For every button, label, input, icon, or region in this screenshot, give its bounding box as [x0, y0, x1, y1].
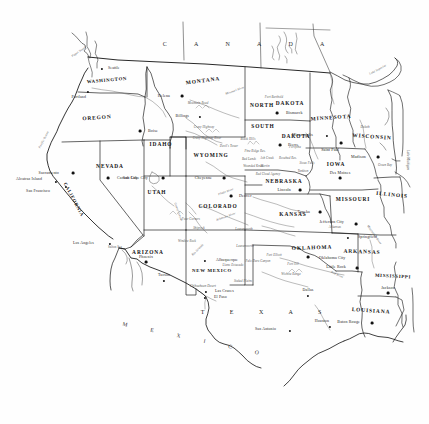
city-marker-dot	[279, 144, 282, 147]
city-marker-dot	[307, 256, 310, 259]
city-marker-dot	[371, 322, 374, 325]
city-marker-dot	[139, 130, 142, 133]
city-marker-dot	[181, 95, 184, 98]
city-marker-dot	[145, 261, 148, 264]
city-marker-dot	[299, 189, 302, 192]
city-marker-dot	[387, 292, 390, 295]
city-marker-dot	[356, 267, 359, 270]
city-marker-dot	[276, 112, 279, 115]
city-marker-dot	[230, 195, 233, 198]
city-marker-dot	[319, 211, 322, 214]
map-geometry	[0, 0, 429, 424]
city-marker-dot	[340, 142, 343, 145]
city-marker-dot	[107, 177, 110, 180]
map-canvas: C A N A D A M E X I C O T E X A S Pacifi…	[0, 0, 429, 424]
city-marker-dot	[162, 177, 165, 180]
city-marker-dot	[339, 177, 342, 180]
city-marker-dot	[72, 172, 75, 175]
city-marker-dot	[223, 177, 226, 180]
city-marker-dot	[355, 223, 358, 226]
city-marker-dot	[377, 156, 380, 159]
